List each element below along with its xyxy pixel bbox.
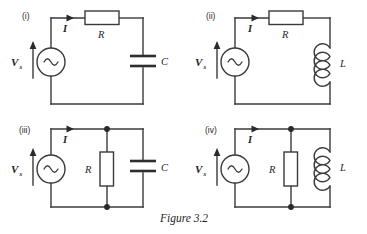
circuit-iii-current-label: I xyxy=(62,134,68,145)
circuit-i-ac-source-icon xyxy=(37,48,65,76)
circuit-iv-ac-source-icon xyxy=(221,155,249,183)
circuit-iii-resistor-symbol xyxy=(100,152,114,186)
circuit-ii-source-label-subscript: s xyxy=(203,63,207,71)
circuit-iii-capacitor-symbol xyxy=(130,161,156,171)
circuit-i-current-label: I xyxy=(62,23,68,34)
circuit-diagram-svg: (i) V s I xyxy=(0,0,367,234)
circuit-i-source-label-subscript: s xyxy=(19,63,23,71)
circuit-ii-inductor-label: L xyxy=(339,58,346,69)
circuit-ii-resistor-label: R xyxy=(281,29,289,40)
circuit-ii-roman-label: (ii) xyxy=(206,11,216,21)
circuit-ii-resistor-symbol xyxy=(269,11,303,25)
circuit-ii-current-label: I xyxy=(247,23,253,34)
circuit-iii-node-top xyxy=(104,126,110,132)
circuit-iv-roman-label: (iv) xyxy=(205,125,217,135)
circuit-iii-source-arrow-icon xyxy=(30,148,37,185)
circuit-i-roman-label: (i) xyxy=(22,11,30,21)
figure-caption: Figure 3.2 xyxy=(159,212,208,225)
circuit-iii: (iii) V s I R xyxy=(11,125,169,210)
circuit-iv-source-arrow-icon xyxy=(214,148,221,185)
circuit-i-current-arrow-icon xyxy=(67,15,75,22)
circuit-iv-current-arrow-icon xyxy=(252,126,260,133)
circuit-ii: (ii) V s I R L xyxy=(195,11,346,104)
figure-container: (i) V s I xyxy=(0,0,367,234)
circuit-i-source-arrow-icon xyxy=(30,41,37,78)
circuit-iii-capacitor-label: C xyxy=(161,162,169,173)
circuit-iv-node-top xyxy=(288,126,294,132)
circuit-ii-inductor-symbol xyxy=(314,44,330,87)
circuit-iii-node-bottom xyxy=(104,204,110,210)
circuit-iii-resistor-label: R xyxy=(84,164,92,175)
circuit-iv-inductor-symbol xyxy=(314,148,330,191)
circuit-ii-ac-source-icon xyxy=(221,48,249,76)
circuit-ii-source-label: V s xyxy=(195,56,207,71)
circuit-iii-source-label: V s xyxy=(11,163,23,178)
circuit-i-capacitor-label: C xyxy=(161,56,169,67)
circuit-i-resistor-symbol xyxy=(85,11,119,25)
circuit-iv-source-label: V s xyxy=(195,163,207,178)
circuit-iv: (iv) V s I R L xyxy=(195,125,346,210)
circuit-ii-current-arrow-icon xyxy=(252,15,260,22)
circuit-i-resistor-label: R xyxy=(97,29,105,40)
circuit-i-source-label: V s xyxy=(11,56,23,71)
circuit-ii-source-arrow-icon xyxy=(214,41,221,78)
circuit-iv-inductor-label: L xyxy=(339,162,346,173)
circuit-iv-resistor-symbol xyxy=(284,152,298,186)
circuit-iv-node-bottom xyxy=(288,204,294,210)
circuit-iv-current-label: I xyxy=(247,134,253,145)
circuit-iii-ac-source-icon xyxy=(37,155,65,183)
circuit-i: (i) V s I xyxy=(11,11,169,104)
circuit-iv-resistor-label: R xyxy=(268,164,276,175)
circuit-iv-source-label-subscript: s xyxy=(203,170,207,178)
circuit-iii-source-label-subscript: s xyxy=(19,170,23,178)
circuit-iii-current-arrow-icon xyxy=(67,126,75,133)
circuit-iii-roman-label: (iii) xyxy=(19,125,30,135)
circuit-i-capacitor-symbol xyxy=(130,56,156,66)
